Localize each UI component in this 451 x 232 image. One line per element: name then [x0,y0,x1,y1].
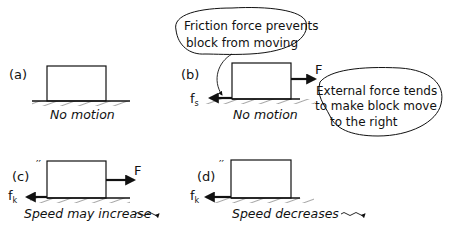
panel-d-label: (d) [197,169,215,184]
friction-callout-line-2: block from moving [186,36,298,50]
panel-c-label: (c) [12,169,29,184]
panel-b-label: (b) [181,67,199,82]
static-friction-label: fs [190,91,199,108]
panel-b-caption: No motion [233,107,298,122]
panel-d: (d) ′′ fk Speed decreases [190,158,365,221]
kinetic-friction-label: fk [190,188,200,205]
external-callout-line-2: to make block move [315,99,437,113]
block [47,161,106,198]
block [232,63,291,99]
panel-a-label: (a) [9,67,27,82]
block [47,66,106,101]
panel-d-caption: Speed decreases [232,206,339,221]
panel-a: (a) No motion [9,66,130,122]
callout-pointer-arrow [217,54,232,95]
panel-a-caption: No motion [50,107,115,122]
squiggle-motion-arrow [341,213,365,216]
motion-tick-marks: ′′ [36,158,41,171]
panel-b: Friction force prevents block from movin… [176,8,442,136]
kinetic-friction-label: fk [8,188,18,205]
block [231,160,291,198]
panel-c: (c) ′′ F fk Speed may increase [8,158,159,221]
external-callout-line-3: to the right [330,115,398,129]
friction-callout-line-1: Friction force prevents [184,19,318,33]
applied-force-label: F [134,163,141,178]
motion-tick-marks: ′′ [219,158,224,171]
applied-force-label: F [315,62,322,77]
panel-c-caption: Speed may increase [24,206,152,221]
friction-diagram: (a) No motion Friction force prevents bl… [0,0,451,232]
external-callout-line-1: External force tends [316,84,437,98]
